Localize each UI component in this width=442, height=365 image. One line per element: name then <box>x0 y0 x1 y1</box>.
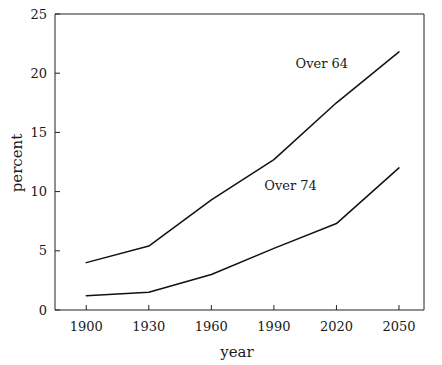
series-label-over-74: Over 74 <box>264 178 317 193</box>
data-series-group <box>86 52 399 296</box>
series-line-over-64 <box>86 52 399 263</box>
plot-frame <box>55 14 424 310</box>
series-line-over-74 <box>86 168 399 296</box>
x-tick-label: 1960 <box>195 319 228 334</box>
axis-tick-labels: 0510152025190019301960199020202050 <box>30 7 415 335</box>
y-tick-label: 20 <box>30 66 47 81</box>
x-tick-label: 1930 <box>132 319 165 334</box>
x-axis-title: year <box>219 343 254 361</box>
y-tick-label: 10 <box>30 184 47 199</box>
chart-axes <box>55 14 424 310</box>
y-tick-label: 25 <box>30 7 47 22</box>
y-axis-title: percent <box>8 134 26 193</box>
x-tick-label: 2020 <box>320 319 353 334</box>
chart-container: 0510152025190019301960199020202050 Over … <box>0 0 442 365</box>
y-tick-label: 0 <box>39 303 47 318</box>
y-tick-label: 5 <box>39 243 47 258</box>
x-tick-label: 2050 <box>382 319 415 334</box>
x-tick-label: 1900 <box>70 319 103 334</box>
series-label-over-64: Over 64 <box>296 56 349 71</box>
line-chart: 0510152025190019301960199020202050 Over … <box>0 0 442 365</box>
y-tick-label: 15 <box>30 125 47 140</box>
series-annotations: Over 64Over 74 <box>264 56 348 193</box>
x-tick-label: 1990 <box>257 319 290 334</box>
